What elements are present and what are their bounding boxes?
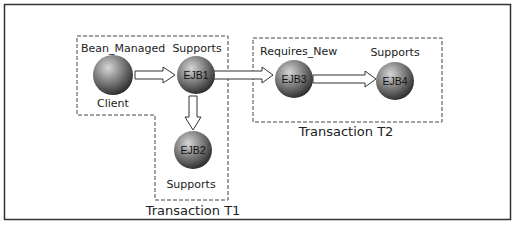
arrow-ejb1-to-ejb3: [213, 67, 273, 83]
transaction-t1-label: Transaction T1: [145, 203, 241, 218]
arrow-client-to-ejb1: [135, 67, 175, 83]
ejb1-attribute-label: Supports: [172, 42, 221, 55]
client-sphere-icon[interactable]: [93, 55, 133, 95]
transaction-t2-label: Transaction T2: [298, 124, 394, 139]
ejb2-attribute-label: Supports: [166, 178, 215, 191]
figure-frame: [5, 5, 511, 220]
diagram-canvas: EJB1 EJB2 EJB3 EJB4 Client Bean_Managed …: [0, 0, 514, 232]
arrow-ejb3-to-ejb4: [313, 71, 376, 87]
ejb3-label: EJB3: [281, 73, 306, 85]
ejb3-attribute-label: Requires_New: [260, 45, 337, 58]
ejb2-label: EJB2: [180, 144, 205, 156]
ejb4-attribute-label: Supports: [370, 46, 419, 59]
client-attribute-label: Bean_Managed: [81, 42, 165, 55]
client-label: Client: [97, 97, 130, 110]
arrow-ejb1-to-ejb2: [185, 96, 201, 130]
ejb1-label: EJB1: [183, 69, 208, 81]
ejb4-label: EJB4: [382, 75, 407, 87]
